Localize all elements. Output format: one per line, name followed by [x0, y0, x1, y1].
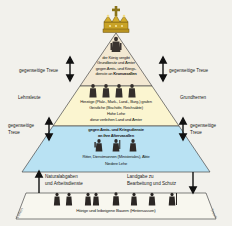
king-text-line-4-prefix: dienste an [95, 71, 113, 76]
label-left-mutual-loyalty-top: gegenseitige Treue [19, 68, 58, 73]
label-right-mutual-loyalty-top: gegenseitige Treue [169, 68, 208, 73]
vassal-text-line-4: Niedere Lehe [16, 162, 216, 167]
label-land-grant-line-2: Bearbeitung und Schutz [127, 181, 176, 186]
label-left-vassals-role: Lehnsleute [18, 95, 40, 100]
label-left-mutual-loyalty-lower-2: Treue [8, 130, 20, 135]
label-land-grant-line-1: Landgabe zu [127, 174, 154, 179]
vassal-text-line-2-bold: Aftervasallen [111, 133, 134, 138]
label-dues-line-1: Naturalabgaben [45, 174, 78, 179]
label-right-mutual-loyalty-lower-2: Treue [190, 130, 202, 135]
vassal-text-line-2: an ihre Aftervasallen [26, 134, 206, 139]
label-left-mutual-loyalty-lower-1: gegenseitige [8, 123, 34, 128]
nobility-text-line-1: Herzöge (Pfalz-, Mark-, Land-, Burg-) gr… [26, 100, 206, 105]
feudal-pyramid-diagram: der König vergibt Grundbesitz und Ämter … [0, 0, 232, 226]
nobility-text-line-4: diese verleihen Land und Ämter [26, 118, 206, 123]
nobility-text-line-3: Hohe Lehe [26, 112, 206, 117]
vassal-text-line-1: gegen Amts- und Kriegsdienste [26, 128, 206, 133]
arrow-up-icon [36, 171, 42, 193]
cross-icon [112, 6, 120, 16]
king-text-line-4-bold: Kronvasallen [113, 71, 136, 76]
label-dues-line-2: und Arbeitsdienste [45, 181, 83, 186]
king-text-line-2: Grundbesitz und Ämter [56, 61, 176, 66]
crown-icon [103, 14, 129, 33]
vassal-text-line-2-prefix: an ihre [98, 133, 111, 138]
label-right-mutual-loyalty-lower-1: gegenseitige [190, 123, 216, 128]
arrow-down-icon [190, 172, 196, 193]
nobility-text-line-2: Geistliche (Bischöfe, Reichsäbte) [26, 106, 206, 111]
king-text-line-4: dienste an Kronvasallen [56, 72, 176, 77]
label-right-landlords-role: Grundherren [180, 95, 206, 100]
peasant-text-line-1: Hörige und leibeigene Bauern (Hintersass… [10, 208, 222, 213]
vassal-text-line-3: Ritter, Dienstmannen (Ministeriales), Äb… [16, 155, 216, 160]
